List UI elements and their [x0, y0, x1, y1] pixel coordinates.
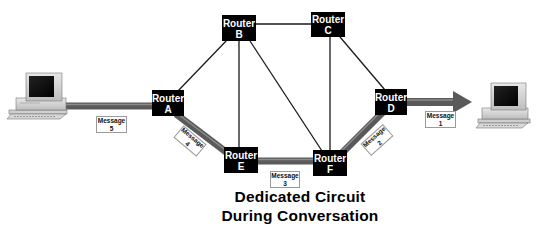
message-3-text: Message	[271, 172, 299, 180]
router-d-label: Router	[375, 92, 407, 103]
arrow-head-icon	[453, 91, 472, 113]
router-b: Router B	[222, 15, 256, 41]
router-c: Router C	[311, 12, 345, 37]
router-e-letter: E	[238, 161, 245, 172]
message-3-label: Message 3	[270, 171, 300, 188]
right-computer-icon	[476, 83, 530, 128]
router-f-letter: F	[327, 164, 333, 175]
message-1-label: Message 1	[425, 111, 456, 128]
message-5-number: 5	[97, 125, 126, 133]
diagram-title-line-1: Dedicated Circuit	[200, 188, 400, 206]
router-a-label: Router	[152, 93, 184, 104]
network-links	[177, 24, 385, 151]
router-d-letter: D	[387, 103, 394, 114]
link-b-f	[250, 41, 322, 151]
message-5-label: Message 5	[96, 116, 127, 133]
message-1-text: Message	[426, 112, 455, 120]
diagram-title-line-2: During Conversation	[200, 207, 400, 225]
router-d: Router D	[375, 89, 407, 115]
left-computer-icon	[7, 73, 67, 119]
router-f: Router F	[313, 150, 347, 176]
message-3-number: 3	[271, 180, 299, 188]
message-5-text: Message	[97, 117, 126, 125]
message-1-number: 1	[426, 120, 455, 128]
router-b-label: Router	[223, 18, 255, 29]
router-a: Router A	[152, 90, 184, 116]
router-e-label: Router	[225, 150, 257, 161]
link-a-b	[177, 39, 228, 92]
router-a-letter: A	[164, 104, 171, 115]
router-b-letter: B	[235, 29, 242, 40]
link-c-d	[340, 37, 385, 90]
router-c-letter: C	[324, 25, 331, 36]
router-c-label: Router	[312, 14, 344, 25]
router-e: Router E	[224, 147, 258, 173]
router-f-label: Router	[314, 153, 346, 164]
